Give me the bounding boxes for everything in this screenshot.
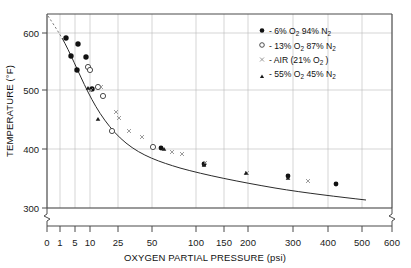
- legend-marker-filled-circle-icon: [260, 28, 265, 33]
- legend-item-3-label: - AIR (21% O: [269, 55, 320, 65]
- x-tick-label-10: 10: [85, 237, 96, 248]
- x-tick-label-50: 50: [147, 237, 158, 248]
- legend-item-4-label: - 55% O: [269, 69, 301, 79]
- chart-container: 600 500 400 300 TEMPERATURE (°F): [0, 0, 411, 268]
- x-tick-label-0: 0: [44, 237, 49, 248]
- x-tick-label-400: 400: [320, 237, 336, 248]
- x-axis-title: OXYGEN PARTIAL PRESSURE (psi): [124, 252, 286, 263]
- legend-marker-open-circle-icon: [260, 43, 265, 48]
- y-tick-label-400: 400: [23, 144, 39, 155]
- legend-item-4-sub2: 2: [332, 73, 336, 80]
- legend-item-1-sub2: 2: [328, 30, 332, 37]
- x-tick-label-1: 1: [57, 237, 62, 248]
- legend-item-2-sub2: 2: [332, 45, 336, 52]
- x-tick-label-300: 300: [285, 237, 301, 248]
- legend-item-1-label: - 6% O: [269, 26, 296, 36]
- y-tick-label-300: 300: [23, 203, 39, 214]
- x-tick-label-200: 200: [240, 237, 256, 248]
- oxygen-partial-pressure-chart: 600 500 400 300 TEMPERATURE (°F): [0, 0, 411, 268]
- x-tick-label-100: 100: [188, 237, 204, 248]
- y-tick-label-500: 500: [23, 85, 39, 96]
- x-tick-label-25: 25: [113, 237, 124, 248]
- legend-item-2-mid: 87% N: [304, 41, 332, 51]
- y-axis-title: TEMPERATURE (°F): [4, 65, 15, 157]
- x-tick-label-5: 5: [72, 237, 77, 248]
- legend-item-3-mid: ): [323, 55, 328, 65]
- legend-item-4-mid: 45% N: [304, 69, 332, 79]
- x-tick-label-500: 500: [354, 237, 370, 248]
- y-tick-label-600: 600: [23, 28, 39, 39]
- legend-item-1: - 6% O2 94% N2: [269, 26, 332, 37]
- x-tick-label-600: 600: [384, 237, 400, 248]
- x-tick-label-150: 150: [216, 237, 232, 248]
- legend-item-1-mid: 94% N: [299, 26, 327, 36]
- chart-background: [0, 0, 411, 268]
- legend-item-2-label: - 13% O: [269, 41, 301, 51]
